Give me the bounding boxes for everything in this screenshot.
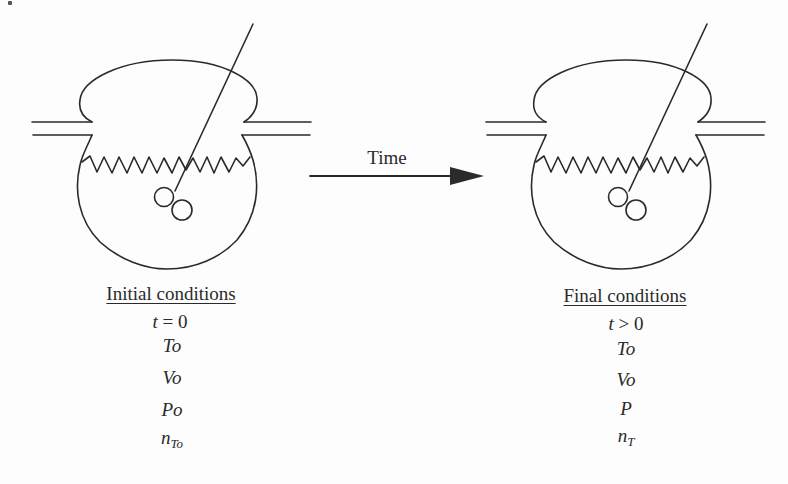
final-moles: nT (618, 426, 635, 445)
initial-volume: Vo (163, 368, 182, 387)
final-conditions-heading: Final conditions (564, 286, 687, 305)
initial-temperature: To (163, 336, 181, 355)
final-pressure: P (620, 399, 632, 418)
initial-pressure: Po (161, 400, 182, 419)
time-arrow (310, 167, 484, 185)
initial-time-value: t = 0 (153, 312, 188, 331)
final-flask (486, 24, 765, 269)
time-label: Time (367, 148, 406, 167)
initial-flask (32, 24, 311, 269)
initial-conditions-heading: Initial conditions (106, 284, 235, 303)
final-time-value: t > 0 (609, 314, 644, 333)
final-temperature: To (617, 339, 635, 358)
diagram-figure: Time Initial conditions t = 0 To Vo Po n… (0, 0, 788, 484)
initial-moles: nTo (161, 428, 183, 447)
final-volume: Vo (617, 370, 636, 389)
diagram-drawing (0, 0, 788, 484)
